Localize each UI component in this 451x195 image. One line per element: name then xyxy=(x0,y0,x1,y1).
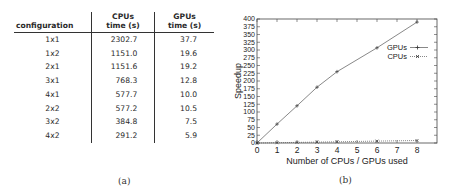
y-tick-label: 125 xyxy=(243,101,255,108)
x-tick-label: 8 xyxy=(415,145,420,155)
series-line-gpus xyxy=(257,22,417,143)
y-tick-label: 200 xyxy=(243,77,255,84)
legend-marker-plus-icon xyxy=(416,46,420,50)
plot-area: 0255075100125150175200225250275300325350… xyxy=(243,15,437,155)
y-tick-label: 175 xyxy=(243,85,255,92)
y-tick-label: 150 xyxy=(243,93,255,100)
y-tick-label: 400 xyxy=(243,15,255,22)
y-tick-label: 75 xyxy=(247,116,255,123)
x-tick-label: 7 xyxy=(395,145,400,155)
data-marker-plus-icon xyxy=(415,20,419,24)
y-tick-label: 100 xyxy=(243,108,255,115)
legend-label-cpus: CPUs xyxy=(387,52,407,61)
x-tick-label: 4 xyxy=(335,145,340,155)
y-tick-label: 350 xyxy=(243,31,255,38)
y-tick-label: 300 xyxy=(243,46,255,53)
y-tick-label: 375 xyxy=(243,23,255,30)
x-tick-label: 0 xyxy=(255,145,260,155)
legend: GPUs CPUs xyxy=(387,43,428,61)
x-tick-label: 1 xyxy=(275,145,280,155)
x-axis-label: Number of CPUs / GPUs used xyxy=(286,156,408,166)
speedup-chart: 0255075100125150175200225250275300325350… xyxy=(0,0,451,195)
legend-label-gpus: GPUs xyxy=(387,43,407,52)
caption-b: (b) xyxy=(339,175,352,185)
y-tick-label: 250 xyxy=(243,62,255,69)
x-tick-label: 6 xyxy=(375,145,380,155)
y-tick-label: 25 xyxy=(247,132,255,139)
x-tick-label: 2 xyxy=(295,145,300,155)
plot-frame xyxy=(257,19,437,143)
y-axis-label: Speedup xyxy=(233,63,243,99)
y-tick-label: 325 xyxy=(243,39,255,46)
x-tick-label: 5 xyxy=(355,145,360,155)
data-marker-plus-icon xyxy=(375,46,379,50)
y-tick-label: 50 xyxy=(247,124,255,131)
y-tick-label: 275 xyxy=(243,54,255,61)
x-tick-label: 3 xyxy=(315,145,320,155)
y-tick-label: 225 xyxy=(243,70,255,77)
